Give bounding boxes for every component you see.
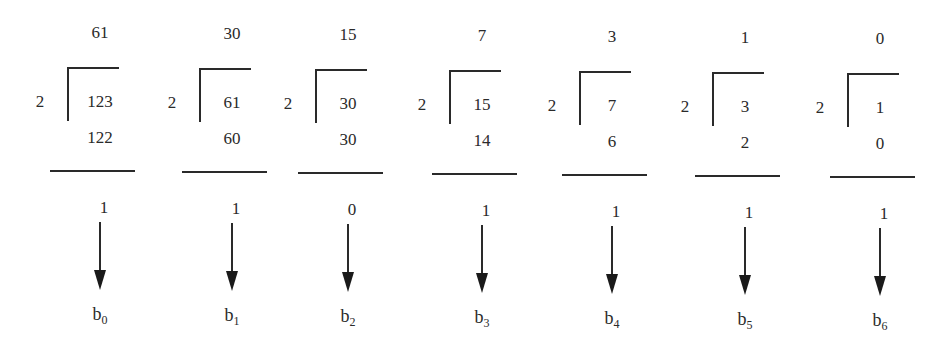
divisor: 2: [816, 99, 825, 116]
bit-label: b6: [873, 311, 888, 335]
quotient: 0: [876, 30, 885, 47]
bit-letter: b: [873, 310, 882, 330]
subtraction-line: [830, 176, 915, 178]
dividend: 1: [876, 99, 885, 116]
division-bracket-horizontal: [847, 73, 899, 75]
arrowhead-icon: [874, 276, 886, 296]
bit-subscript: 6: [882, 319, 888, 333]
product: 0: [876, 135, 885, 152]
division-bracket-vertical: [847, 73, 849, 127]
division-step: 0 2 1 0 1 b6: [0, 0, 947, 345]
remainder: 1: [880, 205, 889, 222]
down-arrow-icon: [879, 228, 881, 280]
